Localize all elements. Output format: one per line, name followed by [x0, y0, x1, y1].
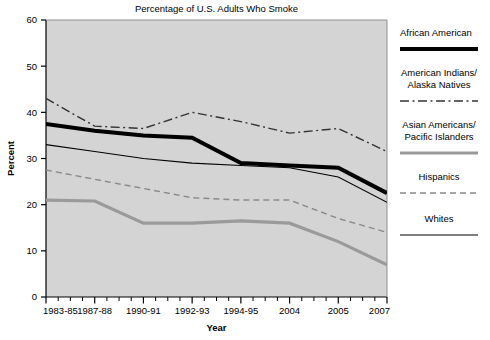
x-tick-label: 2007: [369, 305, 390, 316]
x-tick-label: 2005: [328, 305, 349, 316]
legend-label-whites: Whites: [424, 213, 453, 224]
x-axis-title: Year: [206, 322, 226, 333]
chart-title: Percentage of U.S. Adults Who Smoke: [135, 3, 298, 14]
legend-label-asian-americans: Pacific Islanders: [404, 131, 473, 142]
legend-label-asian-americans: Asian Americans/: [402, 119, 476, 130]
legend-label-hispanics: Hispanics: [418, 171, 459, 182]
legend-label-american-indians: American Indians/: [401, 67, 477, 78]
y-axis-title: Percent: [5, 140, 16, 176]
plot-area-background: [46, 20, 387, 297]
smoking-line-chart: Percentage of U.S. Adults Who Smoke 0102…: [0, 0, 490, 340]
y-tick-label: 10: [26, 245, 37, 256]
y-tick-label: 20: [26, 199, 37, 210]
y-tick-label: 30: [26, 153, 37, 164]
x-tick-label: 2004: [279, 305, 300, 316]
chart-figure: Percentage of U.S. Adults Who Smoke 0102…: [0, 0, 490, 340]
y-tick-label: 40: [26, 107, 37, 118]
x-tick-label: 1994-95: [223, 305, 258, 316]
x-tick-label: 1990-91: [126, 305, 161, 316]
y-tick-label: 0: [32, 291, 37, 302]
legend-label-african-american: African American: [400, 27, 472, 38]
x-tick-label: 1992-93: [175, 305, 210, 316]
y-tick-label: 60: [26, 14, 37, 25]
y-tick-label: 50: [26, 61, 37, 72]
x-tick-label: 1983-85: [43, 305, 78, 316]
legend-label-american-indians: Alaska Natives: [408, 79, 471, 90]
x-tick-label: 1987-88: [77, 305, 112, 316]
